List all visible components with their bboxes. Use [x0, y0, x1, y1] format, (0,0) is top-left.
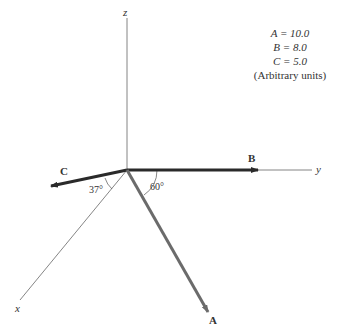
legend-a: A = 10.0 [240, 26, 340, 40]
angle-arc-37 [105, 178, 112, 189]
vector-a-arrow [127, 170, 208, 312]
magnitude-legend: A = 10.0 B = 8.0 C = 5.0 (Arbitrary unit… [240, 26, 340, 82]
vector-diagram: z y x B C A 37° 60° A = 10.0 B = 8.0 C =… [0, 0, 343, 331]
z-axis-label: z [123, 6, 127, 18]
x-axis-label: x [15, 302, 20, 314]
angle-60-label: 60° [150, 181, 164, 192]
legend-units: (Arbitrary units) [240, 68, 340, 82]
legend-b: B = 8.0 [240, 40, 340, 54]
angle-37-label: 37° [89, 184, 103, 195]
y-axis-label: y [316, 163, 321, 175]
vector-a-label: A [209, 314, 217, 326]
vector-c-label: C [60, 165, 68, 177]
legend-c: C = 5.0 [240, 54, 340, 68]
x-axis [20, 170, 127, 300]
vector-b-label: B [248, 152, 255, 164]
